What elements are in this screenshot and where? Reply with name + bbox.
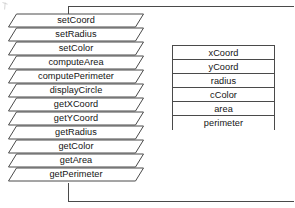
bottom-connector-line [69,183,295,202]
attribute-row[interactable]: yCoord [173,60,274,74]
attribute-row[interactable]: cColor [173,88,274,102]
attribute-row[interactable]: area [173,102,274,116]
operation-label: getRadius [8,125,144,140]
attribute-row[interactable]: radius [173,74,274,88]
operation-row[interactable]: computePerimeter [8,69,144,84]
operation-label: getPerimeter [8,167,144,182]
operation-label: setColor [8,41,144,56]
attributes-table: xCoord yCoord radius cColor area perimet… [172,45,275,130]
operation-row[interactable]: getXCoord [8,97,144,112]
operation-row[interactable]: setRadius [8,27,144,42]
corner-artifact-icon [2,2,9,10]
operation-label: setRadius [8,27,144,42]
operations-stack: setCoord setRadius setColor computeArea [8,13,144,183]
operation-label: setCoord [8,13,144,28]
attribute-row[interactable]: perimeter [173,116,274,130]
operation-label: getYCoord [8,111,144,126]
class-diagram-canvas: setCoord setRadius setColor computeArea [0,0,294,208]
operation-label: computeArea [8,55,144,70]
operation-label: getXCoord [8,97,144,112]
operation-label: displayCircle [8,83,144,98]
attribute-row[interactable]: xCoord [173,46,274,60]
operation-label: getColor [8,139,144,154]
operation-row[interactable]: computeArea [8,55,144,70]
operation-row[interactable]: getColor [8,139,144,154]
operation-row[interactable]: getRadius [8,125,144,140]
operation-row[interactable]: getYCoord [8,111,144,126]
operation-row[interactable]: displayCircle [8,83,144,98]
operation-row[interactable]: setCoord [8,13,144,28]
operation-label: getArea [8,153,144,168]
operation-row[interactable]: getArea [8,153,144,168]
operation-row[interactable]: getPerimeter [8,167,144,182]
operation-row[interactable]: setColor [8,41,144,56]
operation-label: computePerimeter [8,69,144,84]
